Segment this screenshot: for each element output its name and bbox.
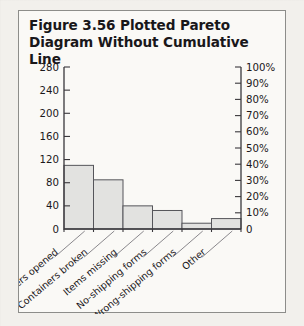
bar-1 (64, 165, 94, 229)
bar-4 (153, 210, 183, 229)
y-tick-label-right-1: 10% (246, 207, 269, 218)
pareto-chart: 04080120160200240280010%20%30%40%50%60%7… (19, 11, 287, 314)
bar-5 (182, 223, 212, 229)
y-tick-label-left-0: 0 (53, 224, 59, 235)
y-tick-label-left-7: 280 (40, 62, 59, 73)
y-tick-label-left-2: 80 (46, 177, 59, 188)
y-tick-label-left-3: 120 (40, 154, 59, 165)
y-tick-label-left-1: 40 (46, 200, 59, 211)
y-tick-label-right-0: 0 (246, 224, 252, 235)
y-tick-label-right-10: 100% (246, 62, 275, 73)
y-tick-label-right-5: 50% (246, 143, 269, 154)
y-tick-label-left-5: 200 (40, 108, 59, 119)
bar-6 (212, 219, 242, 229)
figure-container: Figure 3.56 Plotted Pareto Diagram Witho… (18, 10, 286, 313)
bar-3 (123, 206, 153, 229)
x-category-label-6: Other (180, 246, 208, 272)
y-tick-label-right-9: 90% (246, 78, 269, 89)
page-background: Figure 3.56 Plotted Pareto Diagram Witho… (0, 0, 304, 326)
y-tick-label-right-2: 20% (246, 191, 269, 202)
y-tick-label-right-8: 80% (246, 94, 269, 105)
y-tick-label-left-6: 240 (40, 85, 59, 96)
bar-2 (94, 180, 124, 229)
y-tick-label-right-6: 60% (246, 126, 269, 137)
x-label-leader-6 (202, 231, 232, 257)
y-tick-label-right-7: 70% (246, 110, 269, 121)
y-tick-label-left-4: 160 (40, 131, 59, 142)
y-tick-label-right-3: 30% (246, 175, 269, 186)
y-tick-label-right-4: 40% (246, 159, 269, 170)
